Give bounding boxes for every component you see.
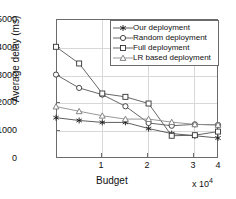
gridline-horizontal [57,131,217,132]
legend-item-full-deployment[interactable]: Full deployment [113,43,216,53]
x-tick-mark [147,153,148,158]
gridline-horizontal [57,76,217,77]
triangle-icon [113,53,133,63]
legend-label: LR based deployment [133,54,211,62]
gridline-vertical [102,20,103,157]
legend-item-our-deployment[interactable]: Our deployment [113,23,216,33]
x-tick-mark [193,153,194,158]
x-exponent-base: x 10 [192,179,209,189]
x-axis-label: Budget [96,176,128,186]
gridline-horizontal [57,103,217,104]
x-tick-mark [101,153,102,158]
y-axis-label: Average delay (ms) [11,0,21,119]
x-tick-label-3: 3 [181,161,205,170]
legend-box: Our deployment Random deployment Full de… [110,20,219,66]
x-exponent-power: 4 [209,177,213,184]
y-tick-mark [56,75,60,76]
x-axis-exponent: x 104 [192,176,213,189]
figure-canvas: 5000 4000 3000 2000 1000 0 1 2 3 4 Avera… [0,0,236,199]
y-tick-mark [56,102,60,103]
square-icon [113,43,133,53]
chart-figure: 5000 4000 3000 2000 1000 0 1 2 3 4 Avera… [0,0,236,199]
x-tick-label-1: 1 [89,161,113,170]
y-tick-mark [56,130,60,131]
legend-label: Random deployment [133,34,207,42]
legend-label: Our deployment [133,24,190,32]
legend-item-lr-based-deployment[interactable]: LR based deployment [113,53,216,63]
star-icon [113,23,133,33]
legend-item-random-deployment[interactable]: Random deployment [113,33,216,43]
circle-icon [113,33,133,43]
y-tick-mark [56,47,60,48]
legend-label: Full deployment [133,44,189,52]
y-tick-label-1000: 1000 [0,126,17,135]
x-tick-label-2: 2 [135,161,159,170]
y-tick-label-0: 0 [0,154,17,163]
x-tick-label-4: 4 [206,161,230,170]
